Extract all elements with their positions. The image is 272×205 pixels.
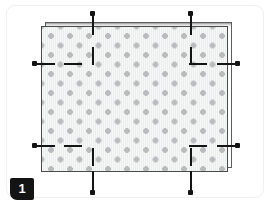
left-marker-lower-tick bbox=[64, 145, 82, 147]
bottom-marker-left-tick bbox=[92, 148, 94, 166]
left-marker-lower-stem bbox=[36, 145, 55, 147]
left-marker-upper-tick bbox=[64, 63, 82, 65]
top-marker-left-stem bbox=[92, 14, 94, 35]
instruction-illustration: 1 bbox=[0, 0, 272, 205]
right-marker-lower-tick bbox=[189, 145, 207, 147]
bottom-marker-right-knob bbox=[188, 190, 193, 195]
right-marker-upper-knob bbox=[235, 61, 240, 66]
left-marker-upper-stem bbox=[36, 63, 55, 65]
top-marker-right-stem bbox=[190, 14, 192, 35]
assembly-diagram bbox=[0, 0, 272, 205]
top-marker-left-tick bbox=[92, 47, 94, 65]
right-marker-lower-knob bbox=[235, 143, 240, 148]
step-number-badge: 1 bbox=[10, 178, 34, 200]
bottom-marker-right-tick bbox=[190, 148, 192, 166]
bottom-marker-left-knob bbox=[90, 190, 95, 195]
right-marker-upper-tick bbox=[189, 63, 207, 65]
perforated-panel bbox=[41, 26, 228, 172]
